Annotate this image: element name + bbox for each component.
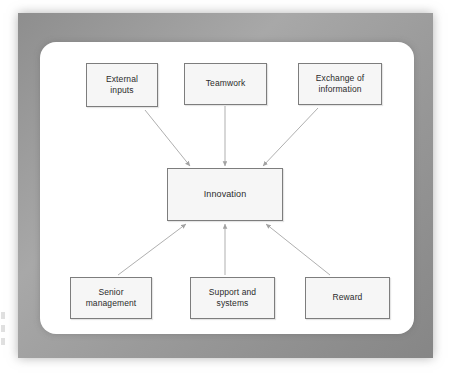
page-edge-artifact-1 — [1, 312, 5, 319]
node-senior-management-label: Senior management — [83, 287, 140, 309]
node-senior-management: Senior management — [70, 277, 152, 319]
node-exchange-of-information: Exchange of information — [298, 63, 382, 105]
node-external-inputs: External inputs — [86, 63, 158, 107]
node-exchange-of-information-label: Exchange of information — [313, 73, 367, 95]
node-innovation: Innovation — [167, 168, 283, 221]
node-external-inputs-label: External inputs — [103, 74, 141, 96]
figure-root: External inputs Teamwork Exchange of inf… — [0, 0, 451, 376]
node-teamwork: Teamwork — [184, 63, 267, 105]
page-edge-artifact-3 — [1, 338, 5, 345]
page-edge-artifact-2 — [1, 325, 5, 332]
node-support-and-systems: Support and systems — [190, 277, 275, 319]
node-teamwork-label: Teamwork — [203, 78, 249, 89]
node-reward: Reward — [305, 277, 390, 319]
node-support-and-systems-label: Support and systems — [206, 287, 259, 309]
node-reward-label: Reward — [330, 292, 366, 303]
node-innovation-label: Innovation — [201, 189, 250, 201]
